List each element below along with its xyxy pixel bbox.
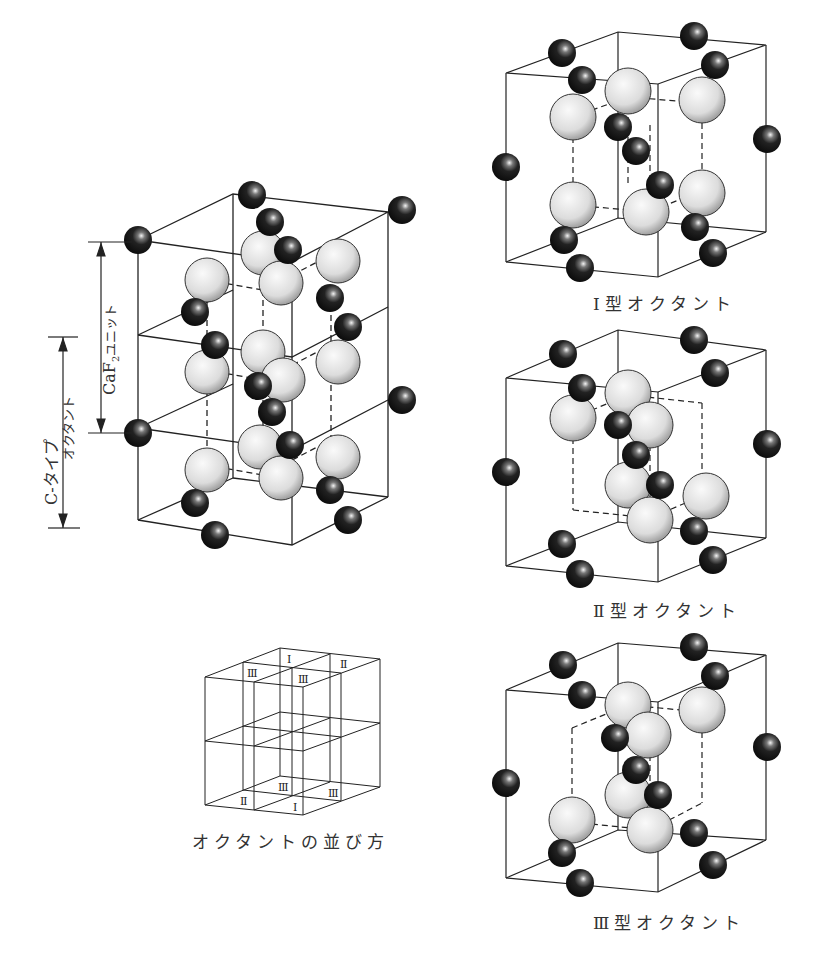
octant-dim-label: オクタント [58, 396, 77, 460]
caption-arrangement: オクタントの並び方 [192, 828, 389, 853]
crystal-structure-figure: Ⅰ Ⅱ Ⅲ Ⅲ Ⅲ Ⅲ Ⅱ Ⅰ [0, 0, 818, 959]
cell-label-top-2: Ⅱ [340, 658, 347, 671]
caption-octant-I: Ⅰ型オクタント [593, 290, 736, 315]
cell-label-top-3: Ⅲ [247, 667, 258, 680]
main-structure-atoms [124, 181, 416, 549]
caf2-text: CaF [100, 362, 119, 395]
octant-II-diagram [492, 326, 781, 588]
caf2-unit-suffix: ユニット [103, 304, 118, 356]
cell-label-bottom-3: Ⅱ [240, 795, 247, 808]
caption-octant-II: Ⅱ型オクタント [593, 597, 741, 622]
cell-label-top-1: Ⅰ [287, 653, 291, 666]
octant-arrangement-grid [205, 648, 380, 815]
octant-I-diagram [492, 22, 781, 282]
cell-label-bottom-1: Ⅲ [278, 781, 289, 794]
cell-label-bottom-4: Ⅰ [293, 801, 297, 814]
cell-label-bottom-2: Ⅲ [328, 787, 339, 800]
caption-octant-III: Ⅲ型オクタント [593, 909, 745, 934]
cell-label-top-4: Ⅲ [298, 673, 309, 686]
caf2-unit-label: CaF2ユニット [100, 304, 121, 395]
caf2-subscript: 2 [110, 356, 121, 362]
octant-III-diagram [492, 633, 781, 897]
